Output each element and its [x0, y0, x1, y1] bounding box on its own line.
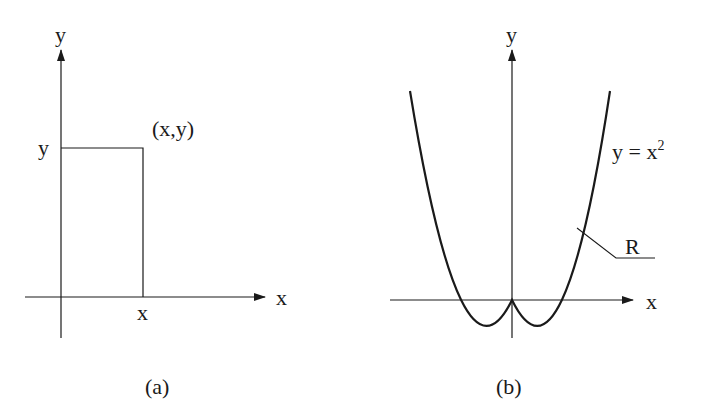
curve-label-b: y = x2: [612, 138, 664, 164]
region-label-b: R: [625, 234, 640, 259]
caption-a: (a): [145, 374, 169, 399]
curve-label-main: y = x: [612, 139, 657, 164]
x-axis-label-b: x: [646, 289, 657, 314]
y-axis-label-b: y: [506, 22, 517, 47]
caption-b: (b): [496, 374, 522, 399]
region-pointer: [577, 228, 655, 258]
rectangle-a: [61, 148, 143, 297]
curve-label-exponent: 2: [657, 138, 664, 153]
x-axis-label-a: x: [276, 285, 287, 310]
panel-a: y x y x (x,y) (a): [25, 22, 287, 399]
point-label-a: (x,y): [152, 116, 194, 141]
figure: y x y x (x,y) (a) y x y = x2 R (b): [0, 0, 703, 419]
panel-b: y x y = x2 R (b): [390, 22, 664, 399]
x-tick-label-a: x: [137, 300, 148, 325]
y-tick-label-a: y: [38, 135, 49, 160]
y-axis-label-a: y: [55, 22, 66, 47]
parabola-curve: [410, 91, 610, 326]
